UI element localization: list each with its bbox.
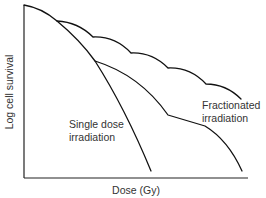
single-dose-curve bbox=[24, 5, 151, 171]
fractionated-curve-upper bbox=[57, 21, 241, 99]
survival-curve-diagram: Single dose irradiation Fractionated irr… bbox=[0, 0, 266, 198]
x-axis-label: Dose (Gy) bbox=[112, 184, 160, 196]
single-dose-label-line1: Single dose bbox=[69, 118, 124, 130]
fractionated-label-line2: irradiation bbox=[202, 112, 248, 124]
single-dose-label-line2: irradiation bbox=[69, 131, 115, 143]
y-axis-label: Log cell survival bbox=[3, 55, 15, 130]
fractionated-label-line1: Fractionated bbox=[202, 99, 261, 111]
